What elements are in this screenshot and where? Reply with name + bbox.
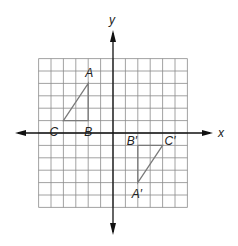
y-axis-label: y [108, 13, 116, 27]
vertex-label: C [49, 125, 58, 139]
vertex-label: A′ [131, 187, 143, 201]
vertex-label: A [84, 66, 93, 80]
y-axis-arrow-up-icon [110, 30, 116, 42]
triangle-A-prime-B-prime-C-prime: A′B′C′ [127, 134, 176, 200]
x-axis-arrow-left-icon [15, 130, 26, 136]
triangle-ABC: ABC [49, 66, 93, 138]
vertex-label: B′ [127, 134, 138, 148]
coordinate-plane: x y ABCA′B′C′ [0, 0, 238, 246]
vertex-label: C′ [165, 134, 177, 148]
axes: x y [15, 13, 225, 235]
x-axis-arrow-right-icon [202, 130, 213, 136]
vertex-label: B [84, 125, 92, 139]
y-axis-arrow-down-icon [110, 223, 116, 235]
x-axis-label: x [217, 126, 225, 140]
